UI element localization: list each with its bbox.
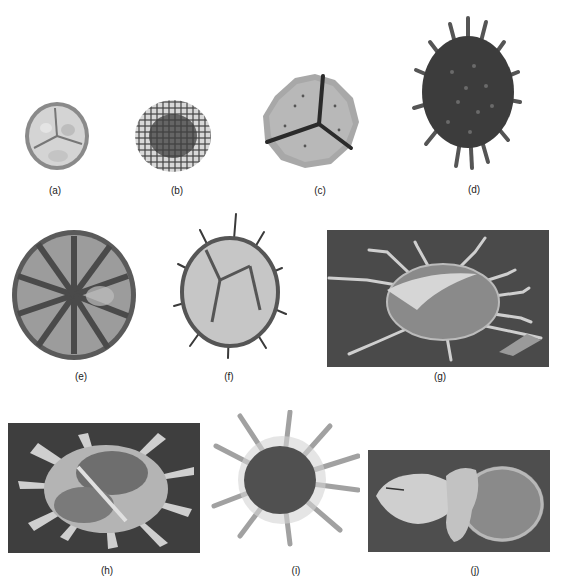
panel-label-j: (j) — [463, 565, 487, 577]
panel-label-h: (h) — [95, 565, 119, 577]
specimen-d-image — [408, 12, 528, 172]
panel-label-a: (a) — [43, 185, 67, 197]
panel-label-c: (c) — [308, 185, 332, 197]
specimen-e-image — [10, 228, 138, 362]
specimen-a-image — [22, 100, 92, 172]
specimen-c-image — [255, 66, 365, 172]
specimen-i-image — [210, 410, 360, 550]
panel-label-i: (i) — [284, 565, 308, 577]
specimen-f-image — [170, 210, 290, 360]
panel-label-e: (e) — [69, 371, 93, 383]
specimen-b-image — [133, 96, 213, 174]
specimen-g-image — [327, 230, 549, 367]
panel-label-b: (b) — [165, 185, 189, 197]
specimen-j-image — [368, 450, 550, 552]
specimen-h-image — [8, 423, 200, 553]
panel-label-f: (f) — [217, 371, 241, 383]
panel-label-d: (d) — [462, 184, 486, 196]
panel-label-g: (g) — [428, 371, 452, 383]
